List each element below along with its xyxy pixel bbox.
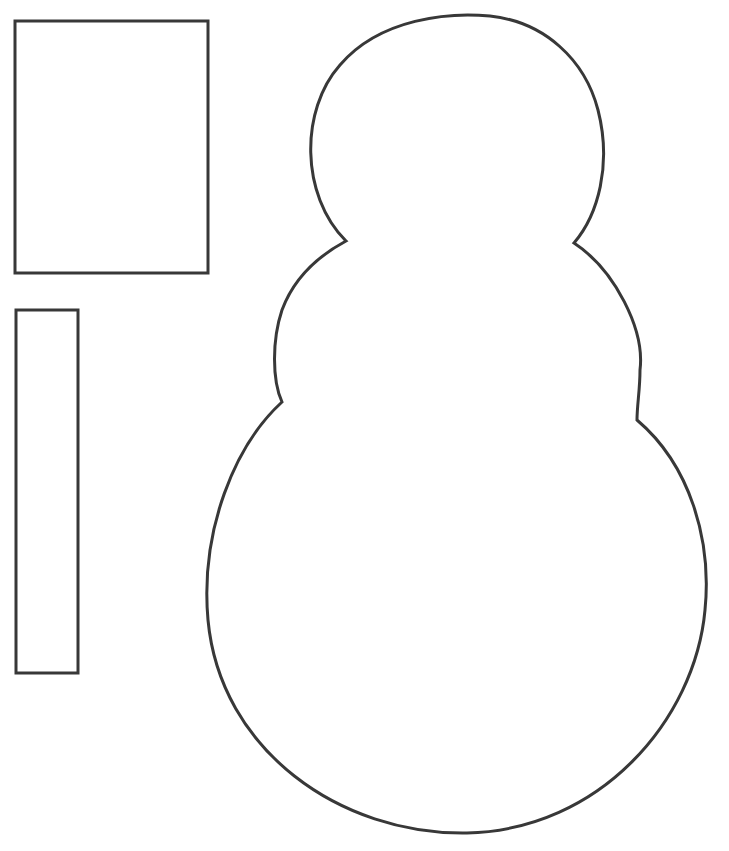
scarf-strip [16,310,78,673]
snowman-outline [207,15,706,833]
snowman-template-drawing [0,0,729,851]
hat-rectangle [15,21,208,273]
template-canvas [0,0,729,851]
